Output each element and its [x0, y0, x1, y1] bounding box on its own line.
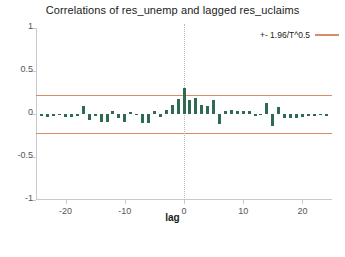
bar [123, 114, 126, 122]
plot-area: -1-0.500.51 -20-1001020 [36, 28, 332, 200]
bar [70, 114, 73, 117]
bar [212, 100, 215, 114]
bar [254, 114, 257, 116]
bar [248, 111, 251, 114]
bar [171, 105, 174, 114]
y-tick-label: -0.5 [17, 150, 33, 160]
bar [194, 98, 197, 114]
bar [177, 99, 180, 114]
bar [46, 114, 49, 117]
bar [218, 114, 221, 124]
bar [106, 114, 109, 122]
x-axis-label: lag [0, 212, 345, 223]
bar [58, 114, 61, 115]
bar [277, 107, 280, 114]
x-tick-mark [125, 200, 126, 204]
correlogram-figure: Correlations of res_unemp and lagged res… [0, 0, 345, 257]
bar [325, 114, 328, 116]
bar [289, 114, 292, 118]
bar [230, 110, 233, 114]
bar [147, 114, 150, 123]
bar [135, 114, 138, 115]
y-axis-line [36, 28, 37, 200]
bar [52, 114, 55, 116]
y-tick-label: -1 [25, 193, 33, 203]
bar [64, 114, 67, 117]
bar [206, 106, 209, 114]
bar [117, 114, 120, 118]
bar [153, 111, 156, 114]
bar [319, 114, 322, 115]
x-tick-mark [243, 200, 244, 204]
page-title: Correlations of res_unemp and lagged res… [0, 4, 345, 16]
bar [259, 114, 262, 115]
bar [295, 114, 298, 118]
bar [236, 111, 239, 114]
bar [129, 112, 132, 114]
bar [40, 114, 43, 116]
bar [76, 114, 79, 116]
bar [141, 114, 144, 123]
bar [200, 105, 203, 114]
x-tick-mark [184, 200, 185, 204]
bar [313, 114, 316, 116]
bar [242, 111, 245, 114]
bar [82, 106, 85, 114]
bar [188, 100, 191, 114]
bar [100, 114, 103, 122]
bar [301, 114, 304, 117]
x-tick-mark [66, 200, 67, 204]
bar [88, 114, 91, 120]
bar [111, 111, 114, 114]
x-tick-mark [302, 200, 303, 204]
y-tick-label: 1 [28, 21, 33, 31]
bar [159, 114, 162, 117]
bar [183, 88, 186, 114]
bar [165, 110, 168, 114]
bar [265, 103, 268, 114]
bar [307, 114, 310, 116]
y-tick-label: 0 [28, 107, 33, 117]
bar [283, 114, 286, 118]
y-tick-label: 0.5 [20, 64, 33, 74]
bar [94, 114, 97, 116]
bar [224, 111, 227, 114]
bar [271, 114, 274, 126]
